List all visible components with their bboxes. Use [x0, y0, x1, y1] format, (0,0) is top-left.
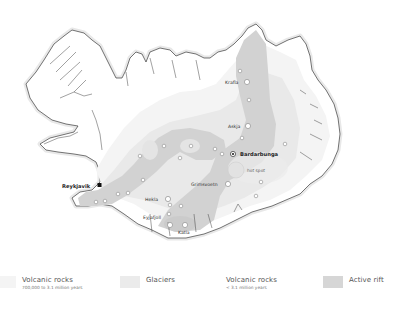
volcano-grimsvoetn	[225, 181, 230, 186]
label-reykjavik: Reykjavik	[62, 183, 91, 190]
legend-item-old-volcanic-rocks: Volcanic rocks 700,000 to 3.1 million ye…	[0, 276, 83, 291]
label-grimsvoetn: Grimsvoetn	[191, 182, 218, 187]
bardarbunga-dot	[232, 153, 234, 155]
legend-subtitle: < 3.1 million years	[226, 285, 277, 291]
label-bardarbunga: Bardarbunga	[240, 151, 279, 158]
volcano-krafla	[244, 79, 249, 84]
label-hekla: Hekla	[145, 197, 158, 202]
map-legend: Volcanic rocks 700,000 to 3.1 million ye…	[0, 276, 406, 306]
iceland-volcano-map: Krafla Askja Bardarbunga hot spot Grimsv…	[0, 0, 406, 250]
glacier-langjokull	[142, 140, 158, 160]
label-askja: Askja	[228, 124, 240, 129]
legend-swatch-old-rocks	[0, 276, 16, 288]
legend-item-young-volcanic-rocks: Volcanic rocks < 3.1 million years	[200, 276, 277, 291]
legend-swatch-active-rift	[323, 276, 343, 288]
label-katla: Katla	[178, 230, 190, 235]
label-krafla: Krafla	[225, 80, 239, 85]
volcano-askja	[245, 123, 250, 128]
legend-title: Volcanic rocks	[22, 276, 83, 285]
legend-title: Glaciers	[146, 276, 175, 285]
legend-swatch-glaciers	[120, 276, 140, 288]
volcano-hekla	[165, 196, 170, 201]
legend-item-active-rift: Active rift	[323, 276, 384, 288]
legend-title: Active rift	[349, 276, 384, 285]
volcano-eyjafjoll	[167, 222, 172, 227]
volcano-katla	[182, 222, 187, 227]
label-eyjafjoll: Eyjafjoll	[143, 215, 161, 220]
legend-subtitle: 700,000 to 3.1 million years	[22, 285, 83, 291]
reykjavik-marker	[98, 183, 102, 187]
legend-title: Volcanic rocks	[226, 276, 277, 285]
legend-swatch-young-rocks	[200, 276, 220, 288]
legend-item-glaciers: Glaciers	[120, 276, 175, 288]
label-hot-spot: hot spot	[247, 168, 265, 173]
hot-spot-marker	[228, 162, 244, 178]
